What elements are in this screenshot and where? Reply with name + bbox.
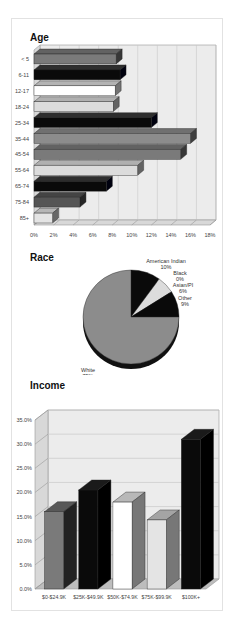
age-bar-top — [34, 176, 112, 181]
income-y-tick-label: 25.0% — [16, 465, 32, 471]
age-bar-top — [34, 192, 86, 197]
age-category-label: 85+ — [20, 215, 29, 221]
age-bar-top — [34, 160, 144, 165]
income-category-label: $25K-$49.9K — [73, 594, 104, 600]
age-bar-top — [34, 144, 187, 149]
age-bar-top — [34, 129, 196, 134]
age-category-label: 45-54 — [15, 151, 29, 157]
age-plot-floor — [34, 220, 216, 225]
age-bar-75-84 — [34, 197, 80, 207]
income-chart-title: Income — [30, 380, 65, 391]
age-bar--5 — [34, 54, 116, 64]
income-bar-1 — [79, 490, 98, 589]
age-bar-45-54 — [34, 149, 181, 159]
income-y-tick-label: 0.0% — [19, 586, 32, 592]
income-y-tick-label: 20.0% — [16, 489, 32, 495]
income-bar-4 — [181, 439, 200, 589]
age-x-tick-label: 8% — [108, 232, 116, 238]
age-x-tick-label: 16% — [185, 232, 196, 238]
age-bar-25-34 — [34, 118, 151, 128]
age-bar-top — [34, 113, 157, 118]
income-category-label: $50K-$74.9K — [107, 594, 138, 600]
race-slice-value: 75% — [82, 373, 93, 375]
income-bar-side — [166, 510, 179, 589]
age-bar-55-64 — [34, 165, 138, 175]
age-bar-85- — [34, 213, 53, 223]
race-slice-value: 10% — [160, 264, 171, 270]
age-category-label: < 5 — [21, 56, 29, 62]
age-category-label: 75-84 — [15, 199, 29, 205]
race-slice-value: 6% — [179, 288, 187, 294]
race-pie-chart: American Indian10%Black0%Asian/PI6%Other… — [0, 255, 235, 375]
age-bar-chart: 0%2%4%6%8%10%12%14%16%18%< 56-1112-1718-… — [0, 40, 235, 255]
age-bar-6-11 — [34, 70, 120, 80]
age-x-tick-label: 0% — [30, 232, 38, 238]
age-bar-18-24 — [34, 102, 113, 112]
age-x-tick-label: 6% — [89, 232, 97, 238]
income-bar-chart: 0.0%5.0%10.0%15.0%20.0%25.0%30.0%35.0%$0… — [0, 400, 235, 615]
age-x-tick-label: 14% — [165, 232, 176, 238]
income-bar-side — [132, 492, 145, 589]
age-x-tick-label: 18% — [204, 232, 215, 238]
income-bar-3 — [147, 520, 166, 589]
age-x-tick-label: 4% — [69, 232, 77, 238]
income-category-label: $75K-$99.9K — [142, 594, 173, 600]
age-x-tick-label: 10% — [126, 232, 137, 238]
race-slice-value: 9% — [181, 301, 189, 307]
age-category-label: 35-44 — [15, 136, 29, 142]
income-y-tick-label: 30.0% — [16, 441, 32, 447]
income-y-tick-label: 15.0% — [16, 514, 32, 520]
age-category-label: 18-24 — [15, 104, 29, 110]
age-bar-35-44 — [34, 134, 190, 144]
income-y-tick-label: 5.0% — [19, 562, 32, 568]
income-y-tick-label: 10.0% — [16, 538, 32, 544]
age-category-label: 6-11 — [18, 72, 29, 78]
age-bar-65-74 — [34, 181, 106, 191]
income-y-tick-label: 35.0% — [16, 417, 32, 423]
income-bar-side — [98, 480, 111, 589]
income-bar-side — [200, 429, 213, 589]
age-category-label: 55-64 — [15, 167, 29, 173]
age-category-label: 65-74 — [15, 183, 29, 189]
age-x-tick-label: 12% — [146, 232, 157, 238]
income-category-label: $100K+ — [182, 594, 200, 600]
age-bar-12-17 — [34, 86, 115, 96]
income-bar-2 — [113, 502, 132, 589]
age-category-label: 12-17 — [15, 88, 29, 94]
income-bar-side — [64, 502, 77, 589]
age-bar-top — [34, 81, 121, 86]
age-bar-top — [34, 97, 119, 102]
age-category-label: 25-34 — [15, 120, 29, 126]
age-x-tick-label: 2% — [50, 232, 58, 238]
age-bar-top — [34, 65, 126, 70]
income-bar-0 — [45, 512, 64, 589]
income-category-label: $0-$24.9K — [42, 594, 66, 600]
age-bar-top — [34, 49, 122, 54]
